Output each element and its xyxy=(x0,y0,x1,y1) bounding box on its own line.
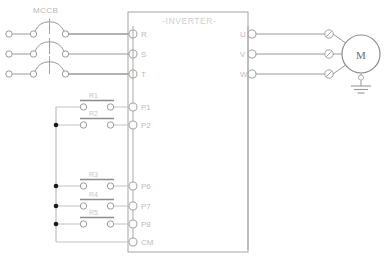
motor-junction-u xyxy=(325,30,333,38)
contact-dot-r5-right xyxy=(107,221,113,227)
input-line-t xyxy=(6,59,133,78)
lead-u xyxy=(333,34,347,44)
motor-junction-w xyxy=(325,70,333,78)
terminal-w[interactable] xyxy=(248,70,256,78)
relay-contact-r5[interactable]: R5 xyxy=(54,209,129,227)
junction-dot-r5 xyxy=(54,222,59,227)
contact-dot-r2-right xyxy=(107,122,113,128)
relay-contact-r4[interactable]: R4 xyxy=(54,191,129,209)
terminal-cm[interactable] xyxy=(129,238,137,246)
terminal-p7[interactable] xyxy=(129,202,137,210)
terminal-dot-r-source xyxy=(6,31,12,37)
terminal-p8[interactable] xyxy=(129,220,137,228)
relay-label-r1: R1 xyxy=(89,92,98,99)
input-line-s xyxy=(6,39,133,58)
terminal-v[interactable] xyxy=(248,50,256,58)
terminal-label-p8: P8 xyxy=(141,220,151,229)
relay-contact-r1[interactable]: R1 xyxy=(68,92,129,110)
junction-dot-r3 xyxy=(54,184,59,189)
contact-dot-r3-right xyxy=(107,183,113,189)
terminal-dot-s-source xyxy=(6,51,12,57)
terminal-label-cm: CM xyxy=(141,238,154,247)
contact-dot-s-left xyxy=(30,51,36,57)
contact-dot-r3-left xyxy=(80,183,86,189)
ground-icon xyxy=(351,86,371,93)
contact-dot-r2-left xyxy=(80,122,86,128)
relay-label-r4: R4 xyxy=(89,191,98,198)
contact-dot-r-right xyxy=(62,31,68,37)
contact-dot-r-left xyxy=(30,31,36,37)
contact-dot-s-right xyxy=(62,51,68,57)
terminal-p1[interactable] xyxy=(129,103,137,111)
terminal-p6[interactable] xyxy=(129,182,137,190)
terminal-label-v: V xyxy=(240,50,246,59)
motor-ground-terminal xyxy=(358,75,363,80)
mccb-label: MCCB xyxy=(33,6,58,15)
terminal-label-p2: P2 xyxy=(141,121,151,130)
terminal-label-w: W xyxy=(240,70,248,79)
terminal-u[interactable] xyxy=(248,30,256,38)
terminal-label-p1: P1 xyxy=(141,103,151,112)
relay-label-r5: R5 xyxy=(89,209,98,216)
terminal-label-s: S xyxy=(141,50,146,59)
relay-label-r2: R2 xyxy=(89,110,98,117)
terminal-dot-t-source xyxy=(6,71,12,77)
motor-junction-v xyxy=(325,50,333,58)
motor-label: M xyxy=(356,49,366,61)
relay-contact-r2[interactable]: R2 xyxy=(54,110,129,128)
inverter-body xyxy=(128,12,248,252)
contact-dot-r5-left xyxy=(80,221,86,227)
input-line-r xyxy=(6,19,133,38)
terminal-label-p7: P7 xyxy=(141,202,151,211)
contact-dot-r4-right xyxy=(107,203,113,209)
inverter-label: -INVERTER- xyxy=(162,16,217,26)
terminal-label-r: R xyxy=(141,30,147,39)
terminal-label-t: T xyxy=(141,70,146,79)
relay-contact-r3[interactable]: R3 xyxy=(54,171,129,189)
relay-label-r3: R3 xyxy=(89,171,98,178)
contact-dot-t-left xyxy=(30,71,36,77)
contact-dot-r1-left xyxy=(80,104,86,110)
contact-dot-r4-left xyxy=(80,203,86,209)
contact-dot-r1-right xyxy=(107,104,113,110)
junction-dot-r2 xyxy=(54,123,59,128)
terminal-label-p6: P6 xyxy=(141,182,151,191)
terminal-label-u: U xyxy=(240,30,246,39)
wiring-diagram: MCCB -INVERTER- xyxy=(0,0,388,265)
terminal-p2[interactable] xyxy=(129,121,137,129)
junction-dot-r4 xyxy=(54,204,59,209)
contact-dot-t-right xyxy=(62,71,68,77)
lead-w xyxy=(333,64,347,74)
